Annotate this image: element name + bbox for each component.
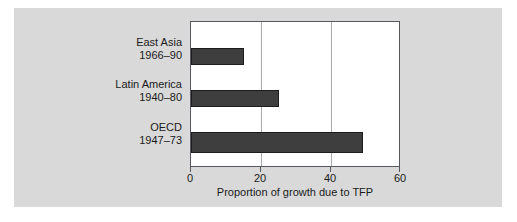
category-name-east-asia: East Asia bbox=[136, 36, 182, 48]
xtick-label-40: 40 bbox=[324, 172, 336, 184]
category-name-latin-america: Latin America bbox=[115, 78, 182, 90]
category-period-latin-america: 1940–80 bbox=[32, 91, 182, 104]
bar-latin-america bbox=[191, 90, 279, 107]
figure: East Asia 1966–90 Latin America 1940–80 … bbox=[0, 0, 517, 222]
xtick-label-60: 60 bbox=[394, 172, 406, 184]
plot-area bbox=[190, 21, 400, 167]
xtick-label-0: 0 bbox=[187, 172, 193, 184]
xtick-label-20: 20 bbox=[254, 172, 266, 184]
category-name-oecd: OECD bbox=[150, 121, 182, 133]
category-label-latin-america: Latin America 1940–80 bbox=[32, 78, 182, 103]
category-label-east-asia: East Asia 1966–90 bbox=[32, 36, 182, 61]
chart-panel: East Asia 1966–90 Latin America 1940–80 … bbox=[14, 8, 502, 207]
bar-oecd bbox=[191, 132, 363, 153]
bar-chart: East Asia 1966–90 Latin America 1940–80 … bbox=[14, 8, 502, 207]
bar-east-asia bbox=[191, 48, 244, 65]
category-period-oecd: 1947–73 bbox=[32, 134, 182, 147]
x-axis-title: Proportion of growth due to TFP bbox=[190, 186, 400, 198]
category-period-east-asia: 1966–90 bbox=[32, 49, 182, 62]
category-label-oecd: OECD 1947–73 bbox=[32, 121, 182, 146]
